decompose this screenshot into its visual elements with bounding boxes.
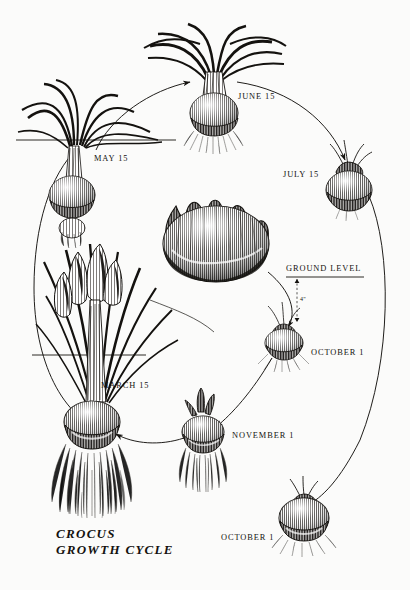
corm-july-15 [326,140,372,221]
label-depth-measure: 4" [300,296,306,302]
label-march-15: MARCH 15 [101,382,149,390]
corm-october-lifted [272,476,336,557]
corm-central-enlarged [163,200,269,282]
label-october-1-upper: OCTOBER 1 [311,349,364,357]
corm-november-1 [179,388,227,492]
depth-arrow-down [295,318,300,322]
label-june-15: JUNE 15 [238,93,275,101]
arrow-november-to-march [116,434,184,443]
label-october-1-lower: OCTOBER 1 [221,534,274,542]
arrow-october-to-november [216,358,272,427]
corm-may-15 [18,80,162,248]
depth-measure-indicator [295,279,300,322]
arrow-detail-leaf-sweep [150,300,214,332]
figure-title-line-1: CROCUS [56,527,116,541]
figure-title-line-2: GROWTH CYCLE [56,543,174,557]
depth-arrow-up [295,279,300,283]
illustration-canvas: JUNE 15 JULY 15 OCTOBER 1 NOVEMBER 1 OCT… [0,0,410,590]
crocus-cycle-artwork [0,0,410,590]
label-july-15: JULY 15 [283,171,319,179]
label-may-15: MAY 15 [94,155,128,163]
corm-october-planted [258,302,309,372]
label-november-1: NOVEMBER 1 [232,432,294,440]
arrow-corm-to-october-planted [268,272,292,326]
label-ground-level: GROUND LEVEL [286,265,361,273]
